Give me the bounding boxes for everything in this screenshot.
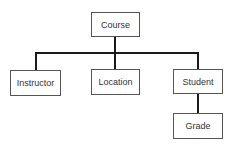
edge-horizontal-bus — [35, 52, 199, 54]
node-instructor: Instructor — [10, 70, 61, 96]
edge-student-grade — [197, 94, 199, 113]
edge-to-location — [114, 52, 116, 69]
node-location: Location — [91, 69, 140, 95]
node-course: Course — [91, 12, 140, 37]
node-label: Instructor — [17, 78, 55, 88]
edge-to-student — [197, 52, 199, 69]
node-grade: Grade — [173, 113, 223, 139]
node-label: Student — [182, 77, 213, 87]
edge-to-instructor — [35, 52, 37, 70]
node-label: Grade — [185, 121, 210, 131]
node-label: Course — [101, 20, 130, 30]
node-label: Location — [98, 77, 132, 87]
node-student: Student — [173, 69, 223, 94]
